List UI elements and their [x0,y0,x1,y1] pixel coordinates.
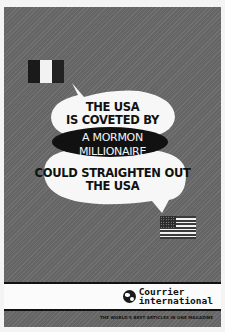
bottom-bubble-text: COULD STRAIGHTEN OUT THE USA [4,167,221,193]
usa-flag-icon [160,216,196,239]
divider-line [4,309,221,311]
globe-icon [123,290,136,303]
poster: THE USA IS COVETED BY A MORMON MILLIONAI… [4,7,221,327]
top-bubble-text: THE USA IS COVETED BY [4,101,221,127]
highlight-text: A MORMON MILLIONAIRE [4,131,221,158]
brand-name-line2: international [139,296,213,305]
brand-tagline: THE WORLD'S BEST ARTICLES IN ONE MAGAZIN… [4,315,213,320]
brand-logo: Courrier international [123,287,213,305]
